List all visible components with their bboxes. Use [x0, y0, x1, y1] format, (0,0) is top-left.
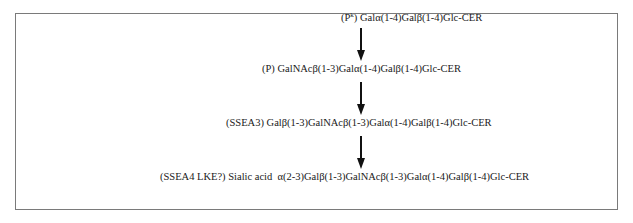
step-label: (SSEA4 LKE?)	[160, 171, 226, 182]
pathway-step-pk: (Pk) Galα(1-4)Galβ(1-4)Glc-CER	[341, 12, 482, 24]
step-label: (SSEA3)	[226, 117, 264, 128]
step-chain: Galβ(1-3)GalNAcβ(1-3)Galα(1-4)Galβ(1-4)G…	[267, 117, 492, 128]
step-chain: Galα(1-4)Galβ(1-4)Glc-CER	[360, 12, 482, 23]
step-label: (P)	[262, 63, 275, 74]
step-chain: Sialic acid α(2-3)Galβ(1-3)GalNAcβ(1-3)G…	[228, 171, 529, 182]
pathway-step-p: (P) GalNAcβ(1-3)Galα(1-4)Galβ(1-4)Glc-CE…	[262, 63, 461, 75]
step-label: (Pk)	[341, 12, 357, 23]
step-chain: GalNAcβ(1-3)Galα(1-4)Galβ(1-4)Glc-CER	[277, 63, 461, 74]
pathway-step-ssea3: (SSEA3) Galβ(1-3)GalNAcβ(1-3)Galα(1-4)Ga…	[226, 117, 492, 129]
pathway-step-ssea4: (SSEA4 LKE?) Sialic acid α(2-3)Galβ(1-3)…	[160, 171, 529, 183]
